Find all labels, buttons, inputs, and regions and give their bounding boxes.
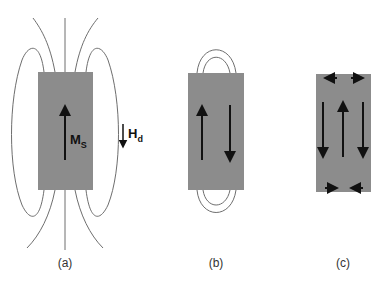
caption-c: (c) — [336, 256, 350, 270]
two-domain-block — [188, 73, 244, 190]
h-subscript: d — [137, 134, 143, 144]
m-symbol: M — [70, 132, 81, 147]
caption-a: (a) — [58, 256, 73, 270]
magnetic-domain-diagram — [0, 0, 384, 283]
m-subscript: S — [81, 140, 87, 150]
caption-b: (b) — [209, 256, 224, 270]
field-label: Hd — [128, 126, 143, 144]
magnetization-label: MS — [70, 132, 87, 150]
h-symbol: H — [128, 126, 137, 141]
